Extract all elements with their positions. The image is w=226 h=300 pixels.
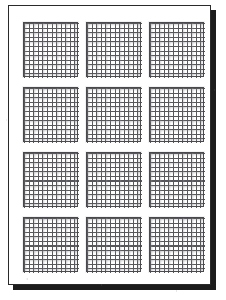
grid-square[interactable] [148, 21, 205, 78]
grid-square[interactable] [22, 151, 79, 208]
grid-ruling [150, 153, 205, 208]
scan-canvas [0, 0, 226, 300]
grid-ruling [24, 153, 79, 208]
grid-ruling [24, 218, 79, 273]
grid-ruling [150, 23, 205, 78]
grid-square[interactable] [85, 86, 142, 143]
grid-square[interactable] [85, 216, 142, 273]
grid-square[interactable] [22, 86, 79, 143]
grid-square[interactable] [22, 216, 79, 273]
grid-ruling [150, 218, 205, 273]
grid-square[interactable] [22, 21, 79, 78]
grid-area [22, 21, 204, 273]
grid-ruling [24, 23, 79, 78]
grid-ruling [150, 88, 205, 143]
grid-ruling [87, 153, 142, 208]
paper-sheet [8, 5, 211, 285]
grid-square[interactable] [85, 151, 142, 208]
grid-ruling [87, 88, 142, 143]
grid-ruling [87, 218, 142, 273]
grid-ruling [24, 88, 79, 143]
grid-square[interactable] [85, 21, 142, 78]
grid-square[interactable] [148, 151, 205, 208]
grid-square[interactable] [148, 216, 205, 273]
grid-ruling [87, 23, 142, 78]
grid-square[interactable] [148, 86, 205, 143]
